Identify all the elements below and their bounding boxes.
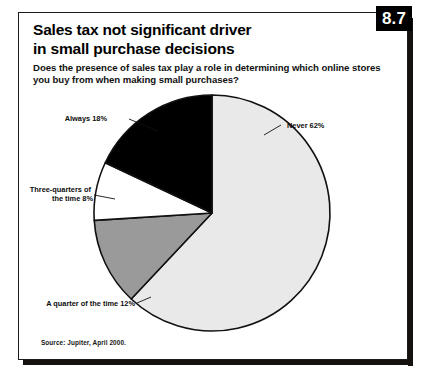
pie-label-never: Never 62% (287, 121, 325, 130)
figure-container: Sales tax not significant driver in smal… (0, 0, 426, 389)
pie-label-a-quarter: A quarter of the time 12% (46, 299, 135, 308)
source-note: Source: Jupiter, April 2000. (41, 339, 126, 346)
pie-slices (94, 95, 330, 331)
pie-chart: Always 18% Three-quarters of the time 8%… (19, 13, 409, 361)
figure-number-badge: 8.7 (376, 6, 412, 31)
pie-label-three-quarters: Three-quarters of the time 8% (30, 185, 94, 203)
pie-chart-svg: Always 18% Three-quarters of the time 8%… (19, 13, 409, 361)
pie-label-three-quarters-line-2: the time 8% (52, 194, 93, 203)
figure-card: Sales tax not significant driver in smal… (18, 12, 408, 360)
pie-label-always: Always 18% (65, 114, 108, 123)
